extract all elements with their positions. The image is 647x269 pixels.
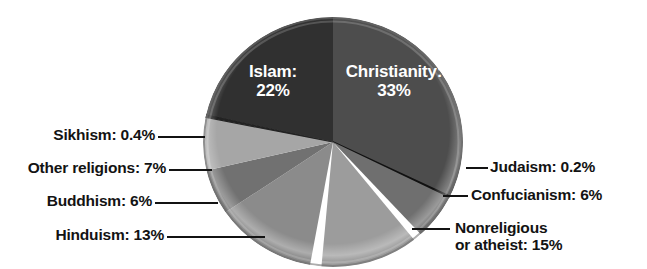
slice-label-buddhism: Buddhism: 6% xyxy=(0,192,152,209)
slice-label-christianity: Christianity: 33% xyxy=(332,62,456,100)
leader-line-hinduism xyxy=(167,236,265,238)
slice-label-hinduism: Hinduism: 13% xyxy=(0,226,164,243)
slice-label-islam: Islam: 22% xyxy=(218,62,328,100)
slice-label-nonreligious: Nonreligious or atheist: 15% xyxy=(455,219,645,253)
leader-line-sikhism xyxy=(158,136,205,138)
leader-line-other-religions xyxy=(169,169,212,171)
slice-label-nonreligious-line1: Nonreligious xyxy=(455,219,645,236)
slice-label-nonreligious-line2: or atheist: 15% xyxy=(455,236,645,253)
slice-label-confucianism: Confucianism: 6% xyxy=(471,186,647,203)
slice-label-christianity-value: 33% xyxy=(332,81,456,100)
slice-label-islam-name: Islam: xyxy=(218,62,328,81)
slice-label-sikhism: Sikhism: 0.4% xyxy=(0,126,155,143)
leader-line-nonreligious xyxy=(412,228,450,230)
slice-label-judaism: Judaism: 0.2% xyxy=(490,158,642,175)
slice-label-other-religions: Other religions: 7% xyxy=(0,159,166,176)
slice-label-islam-value: 22% xyxy=(218,81,328,100)
slice-label-christianity-name: Christianity: xyxy=(332,62,456,81)
leader-line-confucianism xyxy=(443,195,468,197)
leader-line-judaism xyxy=(466,167,488,169)
pie-chart: Islam: 22% Christianity: 33% Sikhism: 0.… xyxy=(0,0,647,269)
leader-line-buddhism xyxy=(155,202,218,204)
